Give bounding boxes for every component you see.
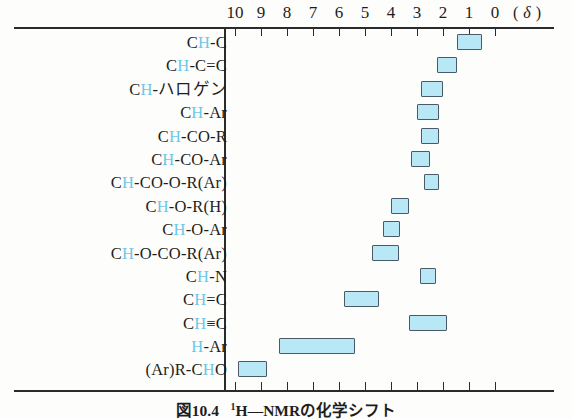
- chart-row: CH-Ar: [0, 101, 572, 124]
- row-label: CH-Ar: [180, 101, 227, 124]
- label-suffix: ≡C: [206, 314, 227, 333]
- shift-range-bar: [383, 221, 400, 237]
- shift-range-bar: [372, 245, 399, 261]
- shift-range-bar: [344, 291, 379, 307]
- label-prefix: (Ar)R-C: [145, 360, 202, 379]
- axis-tick-label: 7: [301, 2, 325, 24]
- label-suffix: =C: [206, 290, 227, 309]
- chart-row: CH≡C: [0, 312, 572, 335]
- label-suffix: -C: [210, 33, 227, 52]
- row-label: H-Ar: [191, 335, 227, 358]
- label-suffix: -CO-Ar: [174, 150, 227, 169]
- axis-tick-label: 9: [249, 2, 273, 24]
- label-hydrogen: H: [140, 80, 152, 99]
- chart-rows: CH-CCH-C=CCH-ハロゲンCH-ArCH-CO-RCH-CO-ArCH-…: [0, 31, 572, 383]
- caption-text: H—NMRの化学シフト: [236, 402, 397, 419]
- shift-range-bar: [424, 174, 440, 190]
- label-hydrogen: H: [157, 197, 169, 216]
- label-prefix: C: [166, 56, 177, 75]
- chart-row: CH-CO-Ar: [0, 148, 572, 171]
- label-prefix: C: [183, 314, 194, 333]
- chart-row: CH-CO-O-R(Ar): [0, 171, 572, 194]
- axis-tick-label: 1: [457, 2, 481, 24]
- shift-range-bar: [238, 361, 268, 377]
- axis-tick-label: 4: [379, 2, 403, 24]
- shift-range-bar: [391, 198, 409, 214]
- label-suffix: -Ar: [203, 337, 227, 356]
- shift-range-bar: [421, 128, 439, 144]
- chart-row: (Ar)R-CHO: [0, 358, 572, 381]
- bottom-rule: [14, 390, 554, 392]
- shift-range-bar: [457, 34, 482, 50]
- axis-tick-label: 6: [327, 2, 351, 24]
- label-suffix: -O-Ar: [186, 220, 227, 239]
- label-hydrogen: H: [203, 360, 215, 379]
- label-hydrogen: H: [177, 56, 189, 75]
- row-label: CH-ハロゲン: [129, 78, 227, 101]
- axis-unit-label: ( δ ): [513, 2, 542, 24]
- label-prefix: C: [162, 220, 173, 239]
- label-hydrogen: H: [122, 173, 134, 192]
- shift-range-bar: [420, 268, 437, 284]
- label-suffix: -ハロゲン: [153, 80, 228, 99]
- label-prefix: C: [183, 290, 194, 309]
- axis-tick-label: 3: [405, 2, 429, 24]
- row-label: CH-C: [187, 31, 227, 54]
- label-prefix: C: [186, 267, 197, 286]
- axis-tick-mark: [339, 382, 340, 390]
- row-label: CH-CO-O-R(Ar): [111, 171, 227, 194]
- chart-row: CH-N: [0, 265, 572, 288]
- chart-row: CH-C=C: [0, 54, 572, 77]
- axis-tick-mark: [261, 382, 262, 390]
- row-label: CH-C=C: [166, 54, 227, 77]
- label-prefix: C: [158, 127, 169, 146]
- axis-tick-label: 8: [275, 2, 299, 24]
- axis-tick-label: 10: [223, 2, 247, 24]
- chart-row: H-Ar: [0, 335, 572, 358]
- axis-tick-mark: [417, 382, 418, 390]
- label-hydrogen: H: [174, 220, 186, 239]
- label-hydrogen: H: [194, 314, 206, 333]
- chart-row: CH-O-CO-R(Ar): [0, 242, 572, 265]
- label-suffix: -CO-R: [181, 127, 227, 146]
- label-prefix: C: [180, 103, 191, 122]
- label-prefix: C: [151, 150, 162, 169]
- label-prefix: C: [129, 80, 140, 99]
- shift-range-bar: [421, 81, 443, 97]
- shift-range-bar: [411, 151, 431, 167]
- label-hydrogen: H: [198, 33, 210, 52]
- label-prefix: C: [145, 197, 156, 216]
- row-label: CH≡C: [183, 312, 227, 335]
- label-hydrogen: H: [169, 127, 181, 146]
- row-label: CH-CO-R: [158, 125, 227, 148]
- label-hydrogen: H: [191, 337, 203, 356]
- axis-tick-mark: [391, 382, 392, 390]
- shift-range-bar: [417, 104, 439, 120]
- label-suffix: -C=C: [189, 56, 227, 75]
- chart-row: CH=C: [0, 288, 572, 311]
- label-prefix: C: [111, 244, 122, 263]
- label-suffix: -N: [209, 267, 227, 286]
- chart-row: CH-CO-R: [0, 125, 572, 148]
- chart-row: CH-O-Ar: [0, 218, 572, 241]
- axis-tick-label: 2: [431, 2, 455, 24]
- axis-tick-mark: [443, 382, 444, 390]
- label-suffix: O: [215, 360, 227, 379]
- axis-tick-mark: [313, 382, 314, 390]
- axis-tick-label: 0: [483, 2, 507, 24]
- top-rule: [14, 27, 554, 29]
- shift-range-bar: [279, 338, 354, 354]
- axis-tick-mark: [235, 382, 236, 390]
- label-hydrogen: H: [194, 290, 206, 309]
- axis-tick-mark: [287, 382, 288, 390]
- label-suffix: -O-CO-R(Ar): [134, 244, 227, 263]
- label-hydrogen: H: [162, 150, 174, 169]
- shift-range-bar: [437, 57, 458, 73]
- row-label: CH-CO-Ar: [151, 148, 227, 171]
- shift-range-bar: [409, 315, 447, 331]
- figure-caption: 図10.4 1H—NMRの化学シフト: [0, 398, 572, 419]
- label-hydrogen: H: [197, 267, 209, 286]
- label-hydrogen: H: [191, 103, 203, 122]
- axis-tick-labels: 109876543210: [0, 2, 572, 26]
- chart-row: CH-C: [0, 31, 572, 54]
